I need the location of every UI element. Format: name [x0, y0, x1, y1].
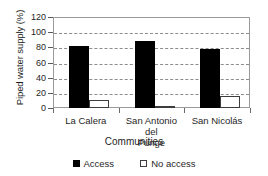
chart-legend: Access No access [0, 158, 268, 169]
x-tick-label-la-calera: La Calera [53, 115, 119, 126]
y-tick-label-20: 20 [18, 88, 46, 98]
y-tick-label-40: 40 [18, 73, 46, 83]
x-tick-label-san-nicolas-line1: San Nicolás [184, 115, 250, 126]
x-tick-label-san-nicolas: San Nicolás [184, 115, 250, 126]
bar-group-san-nicolas [184, 17, 250, 108]
y-tick-label-80: 80 [18, 42, 46, 52]
legend-item-access: Access [73, 158, 115, 169]
y-tick-label-0: 0 [18, 103, 46, 113]
bar-no-access-san-antonio-del-punge [155, 106, 175, 108]
x-axis-title: Communities [0, 136, 268, 147]
bar-access-san-antonio-del-punge [135, 41, 155, 108]
y-tick-label-100: 100 [18, 27, 46, 37]
bar-no-access-san-nicolas [220, 96, 240, 108]
category-separator-2 [184, 108, 185, 113]
x-tick-label-san-antonio-del-punge-line1: San Antonio del [119, 115, 185, 137]
category-separator-right [250, 108, 251, 113]
hollow-square-icon [140, 160, 147, 167]
y-tick-label-120: 120 [18, 12, 46, 22]
legend-label-no-access: No access [151, 158, 195, 169]
bar-access-la-calera [69, 46, 89, 108]
bars-layer [53, 17, 250, 108]
legend-item-no-access: No access [140, 158, 195, 169]
bar-group-la-calera [53, 17, 119, 108]
y-tick-label-60: 60 [18, 58, 46, 68]
filled-square-icon [73, 160, 80, 167]
bar-chart: Piped water supply (%) 0 20 40 60 80 100… [0, 0, 268, 176]
legend-label-access: Access [84, 158, 115, 169]
category-separator-1 [119, 108, 120, 113]
bar-access-san-nicolas [200, 49, 220, 108]
x-tick-label-la-calera-line1: La Calera [53, 115, 119, 126]
bar-no-access-la-calera [89, 100, 109, 108]
category-separator-left [53, 108, 54, 113]
bar-group-san-antonio-del-punge [119, 17, 185, 108]
